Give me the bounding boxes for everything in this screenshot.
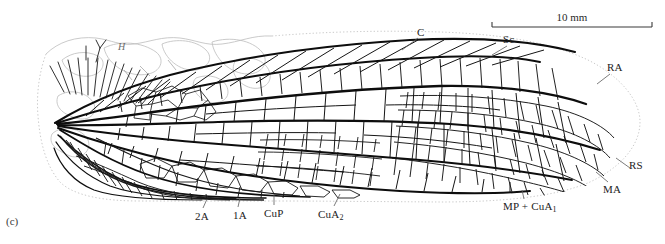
label-base-mark-h: H bbox=[118, 42, 125, 52]
label-vein-RA: RA bbox=[607, 62, 623, 73]
apical-reticulation bbox=[392, 92, 614, 198]
label-vein-C: C bbox=[417, 27, 425, 38]
label-vein-Sc: Sc bbox=[503, 34, 514, 45]
label-vein-cua2-sub: 2 bbox=[339, 213, 343, 222]
wing-figure: C Sc RA RS MA MP + CuA1 CuA2 CuP 1A 2A H… bbox=[0, 0, 665, 244]
leader-RA bbox=[597, 74, 610, 84]
panel-caption: (c) bbox=[6, 215, 18, 227]
label-vein-cua2: CuA2 bbox=[318, 209, 344, 220]
label-vein-mp-cua1-text: MP + CuA bbox=[503, 200, 553, 212]
leader-CuA2 bbox=[334, 194, 340, 206]
leader-2A bbox=[203, 199, 207, 208]
vein-C bbox=[55, 39, 575, 123]
label-vein-mp-cua1: MP + CuA1 bbox=[503, 201, 557, 212]
label-vein-2a: 2A bbox=[195, 211, 209, 222]
vein-RS bbox=[58, 121, 600, 150]
label-vein-cup: CuP bbox=[264, 208, 284, 219]
vein-1A bbox=[56, 142, 236, 199]
label-vein-MA: MA bbox=[603, 184, 621, 195]
scale-bar-label: 10 mm bbox=[492, 11, 652, 23]
base-faint-marks bbox=[124, 60, 176, 80]
label-vein-cua2-text: CuA bbox=[318, 208, 339, 220]
radial-crossveins bbox=[126, 87, 566, 143]
label-vein-1a: 1A bbox=[233, 210, 247, 221]
label-vein-RS: RS bbox=[629, 160, 643, 171]
label-vein-mp-cua1-sub: 1 bbox=[553, 205, 557, 214]
vein-MP-CuA1 bbox=[58, 128, 530, 193]
